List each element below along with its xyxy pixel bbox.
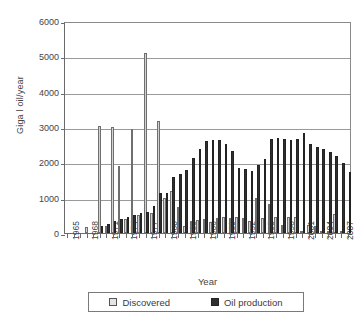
- x-tick-mark: [204, 234, 205, 238]
- legend-label-oil-production: Oil production: [224, 297, 283, 308]
- bar-oil-production: [335, 156, 338, 233]
- bar-oil-production: [185, 170, 188, 233]
- bar-oil-production: [192, 158, 195, 233]
- bar-oil-production: [199, 149, 202, 233]
- bar-oil-production: [342, 163, 345, 233]
- x-tick-mark: [191, 234, 192, 238]
- y-tick-label: 4000: [39, 88, 59, 98]
- x-tick-mark: [276, 234, 277, 238]
- bar-oil-production: [270, 139, 273, 233]
- legend-swatch-discovered-icon: [109, 298, 117, 306]
- bar-group: [130, 23, 137, 233]
- x-tick-mark: [224, 234, 225, 238]
- bar-discovered: [98, 126, 101, 233]
- x-tick-mark: [211, 234, 212, 238]
- bar-oil-production: [101, 226, 104, 233]
- bar-oil-production: [212, 140, 215, 233]
- bar-oil-production: [296, 139, 299, 233]
- bar-discovered: [111, 127, 114, 233]
- bar-oil-production: [166, 193, 169, 233]
- bar-group: [293, 23, 300, 233]
- bar-group: [78, 23, 85, 233]
- x-tick-mark: [296, 234, 297, 238]
- bar-oil-production: [303, 133, 306, 233]
- bar-group: [306, 23, 313, 233]
- bar-oil-production: [179, 174, 182, 233]
- bar-oil-production: [309, 144, 312, 233]
- bar-oil-production: [146, 212, 149, 233]
- x-tick-mark: [250, 234, 251, 238]
- x-tick-mark: [237, 234, 238, 238]
- x-tick-mark: [132, 234, 133, 238]
- bar-group: [202, 23, 209, 233]
- chart-legend: Discovered Oil production: [88, 292, 304, 312]
- x-tick-mark: [302, 234, 303, 238]
- bar-group: [150, 23, 157, 233]
- bar-oil-production: [153, 206, 156, 233]
- bar-oil-production: [218, 140, 221, 233]
- bar-oil-production: [107, 224, 110, 233]
- x-tick-mark: [341, 234, 342, 238]
- x-tick-mark: [309, 234, 310, 238]
- x-tick-mark: [269, 234, 270, 238]
- bar-discovered: [85, 227, 88, 233]
- legend-item-discovered: Discovered: [109, 297, 170, 308]
- bar-oil-production: [172, 177, 175, 233]
- x-tick-mark: [283, 234, 284, 238]
- y-tick-label: 5000: [39, 52, 59, 62]
- x-tick-mark: [348, 234, 349, 238]
- x-tick-mark: [217, 234, 218, 238]
- bar-group: [91, 23, 98, 233]
- x-tick-mark: [315, 234, 316, 238]
- bar-oil-production: [349, 172, 352, 233]
- x-tick-mark: [80, 234, 81, 238]
- bar-oil-production: [114, 221, 117, 233]
- x-axis-label: Year: [64, 276, 351, 287]
- y-tick-label: 3000: [39, 123, 59, 133]
- bar-group: [235, 23, 242, 233]
- y-tick-label: 1000: [39, 194, 59, 204]
- x-tick-mark: [230, 234, 231, 238]
- bar-oil-production: [244, 169, 247, 233]
- x-tick-mark: [152, 234, 153, 238]
- legend-label-discovered: Discovered: [122, 297, 170, 308]
- x-tick-mark: [113, 234, 114, 238]
- bar-oil-production: [127, 217, 130, 233]
- bar-group: [261, 23, 268, 233]
- x-tick-mark: [159, 234, 160, 238]
- bar-group: [319, 23, 326, 233]
- bar-oil-production: [322, 149, 325, 233]
- x-tick-mark: [67, 234, 68, 238]
- x-tick-mark: [185, 234, 186, 238]
- x-tick-mark: [178, 234, 179, 238]
- y-tick-label: 2000: [39, 158, 59, 168]
- bar-group: [163, 23, 170, 233]
- bar-group: [332, 23, 339, 233]
- bar-oil-production: [133, 215, 136, 233]
- bar-series-container: [65, 23, 350, 233]
- bar-oil-production: [238, 168, 241, 233]
- bar-oil-production: [264, 159, 267, 233]
- oil-discovery-production-chart: Giga l oil/year 010002000300040005000600…: [0, 0, 362, 318]
- x-tick-mark: [106, 234, 107, 238]
- bar-group: [274, 23, 281, 233]
- x-tick-mark: [335, 234, 336, 238]
- x-tick-mark: [119, 234, 120, 238]
- bar-group: [248, 23, 255, 233]
- bar-oil-production: [290, 140, 293, 233]
- bar-group: [117, 23, 124, 233]
- legend-swatch-oil-production-icon: [211, 298, 219, 306]
- y-axis-label: Giga l oil/year: [15, 45, 25, 165]
- x-tick-mark: [243, 234, 244, 238]
- x-tick-mark: [198, 234, 199, 238]
- plot-area: 0100020003000400050006000: [64, 22, 351, 234]
- bar-oil-production: [205, 141, 208, 233]
- bar-oil-production: [251, 171, 254, 233]
- x-tick-mark: [126, 234, 127, 238]
- legend-item-oil-production: Oil production: [211, 297, 283, 308]
- x-tick-mark: [93, 234, 94, 238]
- bar-oil-production: [257, 165, 260, 233]
- bar-oil-production: [225, 144, 228, 233]
- bar-oil-production: [159, 193, 162, 233]
- bar-oil-production: [277, 138, 280, 233]
